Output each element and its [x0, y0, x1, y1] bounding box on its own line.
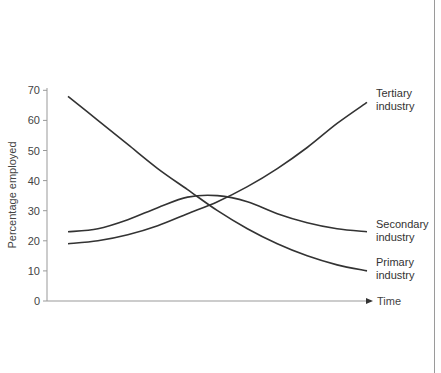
y-tick-label: 10 — [28, 265, 40, 277]
series-lines — [68, 96, 367, 271]
arrow-right-icon — [366, 298, 373, 304]
label-tertiary: Tertiary industry — [376, 87, 415, 112]
y-tick-label: 20 — [28, 235, 40, 247]
y-axis: 010203040506070 — [28, 84, 47, 307]
y-tick-label: 30 — [28, 205, 40, 217]
y-tick-label: 60 — [28, 114, 40, 126]
y-tick-label: 40 — [28, 175, 40, 187]
series-line-primary — [68, 96, 367, 271]
series-line-tertiary — [68, 102, 367, 243]
x-axis: Time — [47, 295, 401, 307]
page-border — [434, 0, 435, 373]
y-axis-title: Percentage employed — [6, 141, 18, 248]
label-primary: Primary industry — [376, 256, 417, 281]
y-tick-label: 0 — [34, 295, 40, 307]
x-axis-title: Time — [377, 295, 401, 307]
label-secondary: Secondary industry — [376, 218, 432, 243]
y-tick-label: 70 — [28, 84, 40, 96]
series-line-secondary — [68, 195, 367, 232]
y-tick-label: 50 — [28, 145, 40, 157]
line-chart: 010203040506070 Time Percentage employed… — [0, 0, 441, 373]
